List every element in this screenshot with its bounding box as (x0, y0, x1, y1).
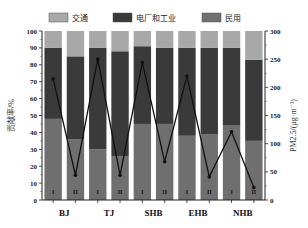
bar-segment (178, 31, 195, 48)
group-label: TJ (104, 208, 115, 218)
y-tick-label: 30 (30, 146, 38, 154)
pm25-point (252, 186, 256, 190)
legend-label: 电厂和工业 (136, 13, 176, 23)
y-right-axis-title: PM2.5/(μg·m⁻³) (289, 99, 298, 152)
bar-segment (245, 60, 262, 141)
y-tick-label: 40 (30, 129, 38, 137)
bar-period-label: II (252, 189, 257, 195)
bar-period-label: II (162, 189, 167, 195)
bar-period-label: II (207, 189, 212, 195)
y-tick-label: 60 (30, 95, 38, 103)
pm25-point (118, 173, 122, 177)
y-right-tick-label: 250 (270, 56, 281, 64)
y-right-tick-label: 150 (270, 112, 281, 120)
bar-period-label: II (73, 189, 78, 195)
bar-segment (67, 31, 84, 56)
bar-segment (44, 31, 61, 48)
bar-segment (44, 119, 61, 200)
bar-segment (89, 48, 106, 149)
bar-segment (44, 48, 61, 119)
y-tick-label: 20 (30, 163, 38, 171)
bar-segment (67, 56, 84, 139)
group-label: SHB (144, 208, 162, 218)
legend-swatch (202, 13, 221, 22)
pm25-point (96, 57, 100, 61)
pm25-point (51, 77, 55, 81)
legend-swatch (49, 13, 68, 22)
pm25-point (141, 61, 145, 65)
y-tick-label: 80 (30, 61, 38, 69)
group-label: EHB (189, 208, 208, 218)
y-axis-title: 贡献率/% (6, 99, 16, 132)
pm25-point (230, 130, 234, 134)
y-right-tick-label: 0 (270, 197, 274, 205)
y-right-tick-label: 100 (270, 140, 281, 148)
bar-segment (89, 31, 106, 48)
y-right-tick-label: 200 (270, 84, 281, 92)
bar-segment (178, 48, 195, 136)
y-right-tick-label: 50 (270, 168, 278, 176)
group-label: NHB (233, 208, 253, 218)
y-tick-label: 100 (27, 28, 38, 36)
bar-segment (201, 48, 218, 134)
stacked-bar-line-chart: 交通电厂和工业民用IIIIIIIIIIIIIII0102030405060708… (0, 0, 308, 228)
bar-period-label: II (118, 189, 123, 195)
y-tick-label: 70 (30, 78, 38, 86)
bar-segment (223, 48, 240, 126)
y-tick-label: 10 (30, 180, 38, 188)
bar-segment (245, 31, 262, 60)
bar-segment (134, 46, 151, 124)
y-tick-label: 0 (34, 197, 38, 205)
pm25-point (207, 175, 211, 179)
bar-segment (201, 31, 218, 48)
y-right-tick-label: 300 (270, 28, 281, 36)
bar-segment (156, 48, 173, 124)
legend-label: 民用 (225, 14, 241, 23)
pm25-point (74, 173, 78, 177)
group-label: BJ (59, 208, 70, 218)
bar-segment (134, 31, 151, 46)
legend-label: 交通 (72, 13, 88, 23)
pm25-point (163, 160, 167, 164)
bar-segment (223, 31, 240, 48)
bar-segment (111, 31, 128, 51)
pm25-point (185, 74, 189, 78)
y-tick-label: 90 (30, 44, 38, 52)
y-tick-label: 50 (30, 112, 38, 120)
legend-swatch (113, 13, 132, 22)
bar-segment (156, 31, 173, 48)
